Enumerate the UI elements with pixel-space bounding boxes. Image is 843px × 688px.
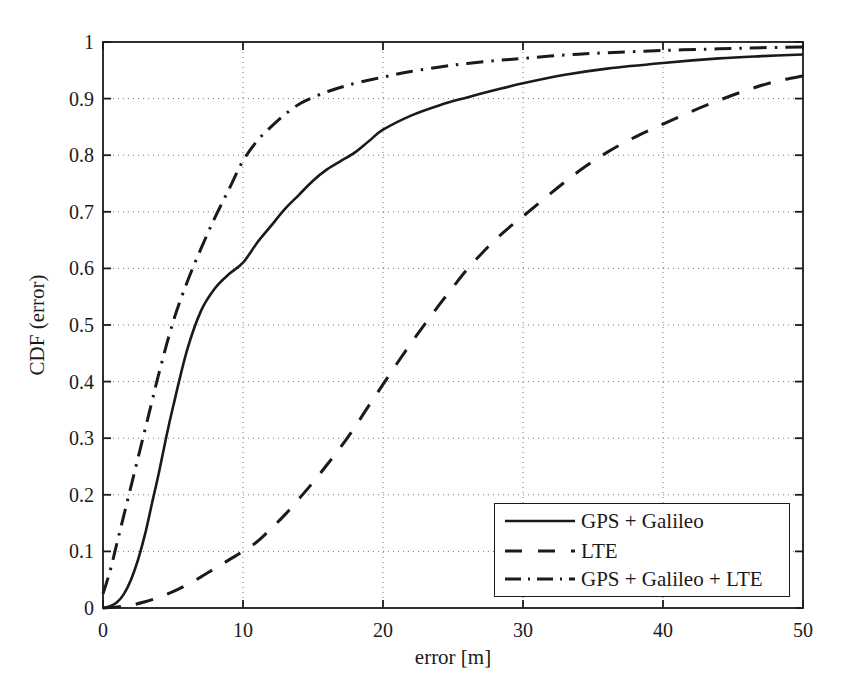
- y-tick-label: 0.7: [38, 202, 94, 222]
- y-tick-label: 0.9: [38, 89, 94, 109]
- x-tick-label: 10: [233, 620, 253, 640]
- y-tick-label: 0.2: [38, 485, 94, 505]
- x-tick-label: 50: [793, 620, 813, 640]
- legend-label: LTE: [581, 539, 618, 564]
- x-tick-label: 20: [373, 620, 393, 640]
- y-tick-label: 0.3: [38, 428, 94, 448]
- legend-line-sample-solid: [503, 511, 577, 531]
- x-tick-label: 0: [98, 620, 108, 640]
- y-tick-label: 1: [38, 32, 94, 52]
- x-axis-label: error [m]: [415, 645, 491, 670]
- legend-item-gps-galileo: GPS + Galileo: [503, 506, 704, 536]
- y-tick-label: 0: [38, 598, 94, 618]
- x-tick-label: 40: [653, 620, 673, 640]
- cdf-chart-figure: 00.10.20.30.40.50.60.70.80.91 0102030405…: [0, 0, 843, 688]
- y-tick-label: 0.8: [38, 145, 94, 165]
- legend-item-gps-galileo-lte: GPS + Galileo + LTE: [503, 564, 763, 594]
- legend-label: GPS + Galileo + LTE: [581, 567, 763, 592]
- y-axis-label: CDF (error): [25, 275, 50, 376]
- x-tick-label: 30: [513, 620, 533, 640]
- legend-line-sample-dashed: [503, 541, 577, 561]
- legend-label: GPS + Galileo: [581, 509, 704, 534]
- legend: GPS + Galileo LTE GPS + Galileo + LTE: [494, 503, 790, 597]
- y-tick-label: 0.1: [38, 541, 94, 561]
- legend-line-sample-dashdot: [503, 569, 577, 589]
- legend-item-lte: LTE: [503, 536, 618, 566]
